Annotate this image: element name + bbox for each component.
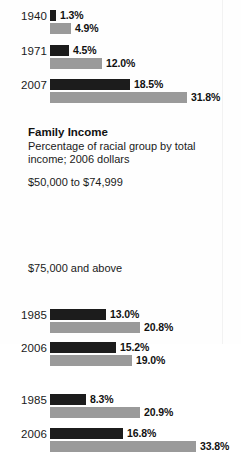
bar-value-dark: 13.0% [110,308,139,320]
bar-row: 31.8% [0,91,241,104]
bar-value-dark: 4.5% [73,44,97,56]
category-label: 1985 [0,309,47,321]
bar-light [50,407,140,418]
bar-value-light: 20.9% [144,406,173,418]
bar-dark [50,10,56,21]
bar-row: 4.9% [0,22,241,35]
section-heading: Family Income [28,126,108,138]
bar-row: 2006 15.2% [0,341,241,354]
bar-value-dark: 18.5% [134,78,163,90]
bar-dark [50,45,69,56]
bar-row: 20.9% [0,406,241,419]
category-label: 1985 [0,394,47,406]
category-label: 1940 [0,10,47,22]
bar-light [50,58,102,69]
bracket-label-mid: $50,000 to $74,999 [28,176,123,188]
bracket-label-high: $75,000 and above [28,262,122,274]
category-label: 2007 [0,79,47,91]
bar-dark [50,309,106,320]
bar-value-light: 31.8% [191,91,220,103]
bar-row: 1940 1.3% [0,9,241,22]
bar-row: 1971 4.5% [0,44,241,57]
bar-row: 1985 13.0% [0,308,241,321]
bar-row: 2007 18.5% [0,78,241,91]
bar-group-top: 1940 1.3% 4.9% 1971 4.5% 12.0% 2007 18.5… [0,0,241,112]
bar-row: 1985 8.3% [0,393,241,406]
bar-value-dark: 1.3% [60,9,84,21]
category-label: 2006 [0,342,47,354]
bar-light [50,322,140,333]
bar-value-light: 12.0% [106,57,135,69]
bar-row: 12.0% [0,57,241,70]
bar-light [50,23,71,34]
bar-value-light: 20.8% [144,321,173,333]
bar-value-dark: 16.8% [127,427,156,439]
bar-dark [50,428,123,439]
category-label: 1971 [0,45,47,57]
bar-value-light: 19.0% [136,354,165,366]
bar-value-dark: 8.3% [90,393,114,405]
bar-row: 20.8% [0,321,241,334]
bar-row: 33.8% [0,440,241,453]
category-label: 2006 [0,428,47,440]
bar-light [50,441,196,452]
bar-light [50,355,132,366]
bar-light [50,92,187,103]
bar-dark [50,394,86,405]
section-subtitle: Percentage of racial group by total inco… [28,140,203,166]
bar-value-light: 33.8% [200,440,229,452]
bar-value-light: 4.9% [75,22,99,34]
bar-value-dark: 15.2% [120,341,149,353]
bar-dark [50,79,130,90]
bar-dark [50,342,116,353]
bar-row: 2006 16.8% [0,427,241,440]
bar-row: 19.0% [0,354,241,367]
